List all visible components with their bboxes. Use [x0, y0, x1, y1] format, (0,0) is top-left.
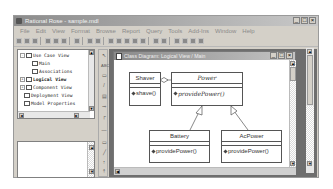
back-icon[interactable] — [161, 38, 167, 44]
tree-horizontal-scrollbar[interactable]: ◀ ▶ — [18, 111, 90, 118]
class-name: Battery — [150, 131, 209, 142]
menu-edit[interactable]: Edit — [36, 28, 46, 34]
package-tool-icon[interactable]: ▭ — [101, 140, 107, 145]
diagram-horizontal-scrollbar[interactable]: ◀ — [114, 167, 296, 175]
scroll-thumb[interactable] — [290, 67, 296, 81]
deployment-diagram-icon[interactable] — [132, 38, 138, 44]
diagram-window-title: Class Diagram: Logical View / Main — [124, 53, 206, 59]
scroll-up-icon[interactable]: ▲ — [89, 145, 94, 150]
close-button[interactable]: × — [309, 17, 316, 24]
class-name: Power — [172, 73, 242, 84]
text-tool-icon[interactable]: ABC — [101, 63, 107, 68]
class-diagram-icon[interactable] — [108, 38, 114, 44]
menu-tools[interactable]: Tools — [168, 28, 182, 34]
toolbar-separator — [82, 37, 83, 45]
scroll-up-icon[interactable]: ▲ — [290, 61, 295, 66]
tree-item-label: Main — [39, 61, 50, 66]
menu-help[interactable]: Help — [242, 28, 254, 34]
class-power[interactable]: Power providePower() — [171, 72, 243, 106]
class-acpower[interactable]: AcPower providePower() — [221, 130, 282, 163]
usecase-diagram-icon[interactable] — [116, 38, 122, 44]
fit-icon[interactable] — [190, 38, 196, 44]
browse-icon[interactable] — [95, 38, 101, 44]
class-name: Shaver — [130, 73, 160, 84]
standard-toolbar — [14, 35, 318, 47]
class-battery[interactable]: Battery providePower() — [149, 130, 210, 163]
association-tool-icon[interactable]: ┌ — [101, 114, 107, 119]
help-icon[interactable] — [87, 38, 93, 44]
diagram-maximize-button[interactable]: □ — [278, 52, 285, 59]
toolbar-separator — [103, 37, 104, 45]
scroll-up-icon[interactable]: ▲ — [307, 49, 312, 54]
menu-query[interactable]: Query — [146, 28, 162, 34]
diagram-title-bar[interactable]: Class Diagram: Logical View / Main _ □ × — [114, 52, 295, 60]
zoom-out-icon[interactable] — [174, 38, 180, 44]
scroll-down-icon[interactable]: ▼ — [290, 161, 295, 166]
menu-browse[interactable]: Browse — [96, 28, 116, 34]
menu-file[interactable]: File — [20, 28, 30, 34]
scroll-thumb[interactable] — [307, 55, 313, 105]
menu-view[interactable]: View — [52, 28, 65, 34]
open-icon[interactable] — [24, 38, 30, 44]
menu-format[interactable]: Format — [71, 28, 90, 34]
interface-tool-icon[interactable]: ⊸ — [101, 104, 107, 109]
operation-label: providePower() — [156, 146, 197, 157]
scroll-track[interactable] — [306, 106, 314, 161]
select-tool-icon[interactable]: ↖ — [101, 53, 107, 58]
menu-report[interactable]: Report — [122, 28, 140, 34]
scroll-right-icon[interactable]: ▶ — [74, 113, 79, 118]
operation-icon — [173, 91, 177, 95]
tree-item-component-view[interactable]: + Component View — [20, 85, 72, 90]
menu-window[interactable]: Window — [215, 28, 236, 34]
print-icon[interactable] — [74, 38, 80, 44]
diagram-canvas[interactable]: Shaver shave() Power providePower() — [114, 60, 289, 167]
maximize-button[interactable]: □ — [301, 17, 308, 24]
scroll-left-icon[interactable]: ◀ — [19, 113, 24, 118]
collapse-icon[interactable]: - — [20, 53, 25, 58]
new-icon[interactable] — [16, 38, 22, 44]
class-shaver[interactable]: Shaver shave() — [129, 72, 161, 106]
diagram-vertical-scrollbar[interactable]: ▲ ▼ — [289, 60, 296, 167]
menu-addins[interactable]: Add-Ins — [188, 28, 209, 34]
operation-providepower: providePower() — [172, 88, 242, 99]
tree-item-associations[interactable]: Associations — [32, 69, 72, 74]
sequence-diagram-icon[interactable] — [140, 38, 146, 44]
paste-icon[interactable] — [61, 38, 67, 44]
documentation-pane[interactable]: ▲ ▼ — [17, 141, 95, 178]
undo-fit-icon[interactable] — [198, 38, 204, 44]
class-tool-icon[interactable]: ▤ — [101, 94, 107, 99]
scroll-down-icon[interactable]: ▼ — [307, 161, 312, 166]
scroll-left-icon[interactable]: ◀ — [115, 169, 120, 174]
minimize-button[interactable]: _ — [293, 17, 300, 24]
note-tool-icon[interactable]: ▭ — [101, 73, 107, 78]
anchor-tool-icon[interactable]: / — [101, 83, 107, 88]
statechart-icon[interactable] — [153, 38, 159, 44]
tree-item-label: Component View — [33, 85, 72, 90]
component-diagram-icon[interactable] — [124, 38, 130, 44]
copy-icon[interactable] — [53, 38, 59, 44]
doc-vertical-scrollbar[interactable]: ▲ ▼ — [87, 142, 94, 177]
generalization-tool-icon[interactable]: ↑ — [101, 160, 107, 165]
expand-icon[interactable]: + — [20, 85, 25, 90]
cut-icon[interactable] — [45, 38, 51, 44]
tree-item-deployment-view[interactable]: Deployment View — [24, 93, 73, 98]
tree-vertical-scrollbar[interactable]: ▲ ▼ — [88, 50, 94, 111]
save-icon[interactable] — [32, 38, 38, 44]
zoom-in-icon[interactable] — [182, 38, 188, 44]
expand-icon[interactable]: + — [20, 77, 25, 82]
outer-vertical-scrollbar[interactable]: ▲ ▼ — [306, 48, 314, 173]
aggregation-tool-icon[interactable]: — — [101, 128, 107, 133]
realize-tool-icon[interactable]: ⇡ — [101, 169, 107, 174]
tree-item-label: Model Properties — [31, 101, 75, 106]
scroll-down-icon[interactable]: ▼ — [89, 169, 94, 174]
diagram-close-button[interactable]: × — [286, 52, 293, 59]
title-bar[interactable]: Rational Rose - sample.mdl _ □ × — [14, 16, 318, 26]
tree-item-use-case-view[interactable]: - Use Case View — [20, 53, 69, 58]
tree-item-logical-view[interactable]: + Logical View — [20, 77, 66, 82]
tree-item-label: Associations — [39, 69, 72, 74]
tree-item-main[interactable]: Main — [32, 61, 50, 66]
dependency-tool-icon[interactable]: ╱ — [101, 150, 107, 155]
tree-item-model-properties[interactable]: Model Properties — [24, 101, 75, 106]
diagram-minimize-button[interactable]: _ — [270, 52, 277, 59]
scroll-up-icon[interactable]: ▲ — [89, 50, 94, 55]
